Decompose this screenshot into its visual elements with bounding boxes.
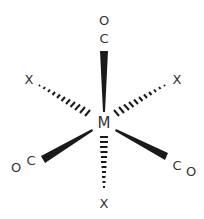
bottom-hash-bond	[100, 136, 108, 188]
atom-label-top-c: C	[99, 31, 108, 46]
atom-label-lower-left-c: C	[26, 153, 35, 168]
atom-label-top-o: O	[99, 13, 109, 28]
atom-label-upper-left-x: X	[25, 72, 34, 87]
atom-label-lower-right-o: O	[186, 164, 196, 179]
atom-label-lower-left-o: O	[11, 160, 21, 175]
top-wedge-bond	[100, 51, 108, 112]
atom-label-bottom-x: X	[100, 196, 109, 211]
atom-label-lower-right-c: C	[172, 158, 181, 173]
upper-left-hash-bond	[39, 85, 90, 116]
upper-right-hash-bond	[114, 85, 165, 116]
atom-label-center-m: M	[98, 114, 111, 132]
molecule-diagram: O C X X M O C C O X	[0, 0, 204, 219]
atom-label-upper-right-x: X	[173, 72, 182, 87]
lower-right-wedge-bond	[115, 129, 168, 160]
lower-left-wedge-bond	[41, 129, 93, 163]
